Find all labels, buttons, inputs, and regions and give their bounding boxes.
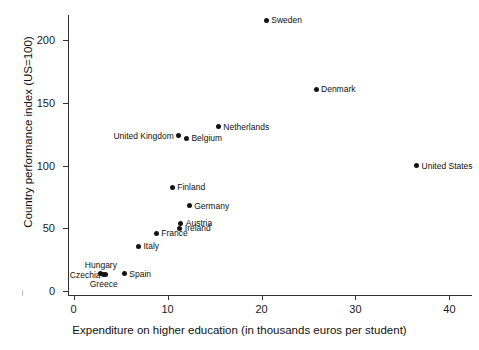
y-tick-label-100: 100 — [37, 160, 55, 172]
data-point-united-kingdom[interactable] — [176, 133, 181, 138]
plot-area: 050100150200 010203040 SwedenDenmarkNeth… — [68, 15, 472, 295]
data-label-italy: Italy — [143, 242, 159, 251]
data-label-sweden: Sweden — [271, 16, 302, 25]
y-axis-line — [68, 15, 69, 295]
x-tick-label-10: 10 — [161, 303, 173, 315]
data-point-belgium[interactable] — [184, 136, 189, 141]
x-tick-30 — [355, 295, 356, 300]
x-tick-10 — [168, 295, 169, 300]
data-point-spain[interactable] — [122, 271, 127, 276]
data-point-united-states[interactable] — [414, 163, 419, 168]
data-point-netherlands[interactable] — [216, 124, 221, 129]
y-tick-label-0: 0 — [49, 285, 55, 297]
y-tick-100: 100 — [63, 166, 68, 167]
y-tick-50: 50 — [63, 228, 68, 229]
y-axis-title: Country performance index (US=100) — [22, 0, 34, 272]
data-label-denmark: Denmark — [321, 85, 355, 94]
x-tick-label-20: 20 — [255, 303, 267, 315]
data-label-finland: Finland — [177, 183, 205, 192]
data-label-germany: Germany — [194, 202, 229, 211]
stray-tick-mark — [22, 290, 23, 296]
data-label-hungary: Hungary — [85, 260, 117, 269]
x-tick-40 — [449, 295, 450, 300]
data-label-united-kingdom: United Kingdom — [113, 131, 173, 140]
scatter-chart-figure: 050100150200 010203040 SwedenDenmarkNeth… — [0, 0, 479, 350]
data-point-finland[interactable] — [170, 185, 175, 190]
data-label-netherlands: Netherlands — [223, 122, 269, 131]
data-point-sweden[interactable] — [264, 18, 269, 23]
x-tick-label-40: 40 — [443, 303, 455, 315]
data-label-spain: Spain — [129, 269, 151, 278]
data-point-france[interactable] — [154, 231, 159, 236]
data-label-ireland: Ireland — [185, 224, 211, 233]
x-tick-0 — [74, 295, 75, 300]
y-tick-label-150: 150 — [37, 97, 55, 109]
y-tick-0: 0 — [63, 291, 68, 292]
x-tick-20 — [262, 295, 263, 300]
data-point-italy[interactable] — [136, 244, 141, 249]
x-tick-label-0: 0 — [71, 303, 77, 315]
data-label-france: France — [161, 229, 187, 238]
data-label-czechia: Czechia — [70, 271, 101, 280]
y-tick-150: 150 — [63, 103, 68, 104]
data-label-united-states: United States — [422, 161, 473, 170]
data-point-denmark[interactable] — [314, 87, 319, 92]
data-point-germany[interactable] — [187, 203, 192, 208]
x-tick-label-30: 30 — [349, 303, 361, 315]
y-tick-label-50: 50 — [43, 222, 55, 234]
x-axis-line — [68, 295, 472, 296]
data-label-belgium: Belgium — [191, 134, 222, 143]
y-tick-label-200: 200 — [37, 34, 55, 46]
x-axis-title: Expenditure on higher education (in thou… — [0, 324, 479, 336]
data-label-greece: Greece — [90, 280, 118, 289]
y-tick-200: 200 — [63, 40, 68, 41]
